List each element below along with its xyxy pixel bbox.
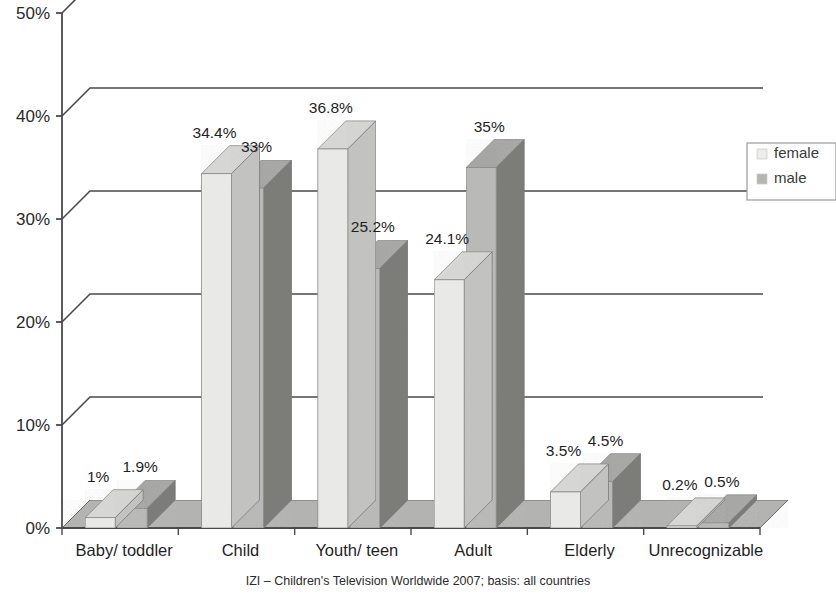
legend-swatch-female	[757, 149, 767, 159]
data-label: 4.5%	[588, 432, 624, 449]
bar-side-face	[264, 160, 292, 528]
data-labels: 1%34.4%36.8%24.1%3.5%0.2%1.9%33%25.2%35%…	[87, 99, 740, 493]
data-label: 1%	[87, 468, 110, 485]
data-label: 24.1%	[425, 230, 469, 247]
x-axis-tick-label: Elderly	[564, 541, 615, 559]
bar-female	[434, 252, 492, 528]
gridline	[62, 191, 763, 219]
legend-label-female: female	[774, 144, 819, 161]
x-axis-tick-label: Youth/ teen	[315, 541, 398, 559]
legend: femalemale	[747, 143, 836, 200]
bar-front-face	[667, 526, 697, 528]
chart-caption: IZI – Children's Television Worldwide 20…	[246, 574, 590, 588]
bar-front-face	[202, 174, 232, 528]
x-axis-tick-label: Unrecognizable	[649, 541, 764, 559]
bar-side-face	[496, 140, 524, 529]
bar-side-face	[464, 252, 492, 528]
data-label: 25.2%	[351, 218, 395, 235]
x-axis-tick-label: Child	[222, 541, 260, 559]
gridline	[62, 88, 763, 116]
data-label: 3.5%	[546, 442, 582, 459]
bar-front-face	[85, 518, 115, 528]
legend-label-male: male	[774, 169, 807, 186]
y-axis-tick-label: 10%	[16, 416, 50, 435]
data-label: 34.4%	[193, 124, 237, 141]
bar-front-face	[551, 492, 581, 528]
bars-group	[85, 121, 757, 528]
data-label: 33%	[241, 138, 272, 155]
y-axis-tick-label: 50%	[16, 4, 50, 23]
y-axis-tick-label: 20%	[16, 313, 50, 332]
y-axis-tick-label: 30%	[16, 210, 50, 229]
y-axis-tick-label: 40%	[16, 107, 50, 126]
source-caption: IZI – Children's Television Worldwide 20…	[246, 574, 590, 588]
bar-front-face	[699, 523, 729, 528]
y-axis-labels: 0%10%20%30%40%50%	[16, 4, 50, 538]
x-axis-labels: Baby/ toddlerChildYouth/ teenAdultElderl…	[62, 528, 763, 559]
legend-swatch-male	[757, 174, 767, 184]
gridline	[62, 0, 763, 13]
chart-container: 0%10%20%30%40%50% Baby/ toddlerChildYout…	[0, 0, 836, 601]
data-label: 1.9%	[122, 458, 158, 475]
bar-side-face	[380, 240, 408, 528]
bar-side-face	[348, 121, 376, 528]
gridlines-group	[62, 0, 763, 425]
gridline	[62, 294, 763, 322]
data-label: 36.8%	[309, 99, 353, 116]
bar-chart-3d: 0%10%20%30%40%50% Baby/ toddlerChildYout…	[0, 0, 836, 601]
data-label: 0.5%	[704, 473, 740, 490]
bar-side-face	[232, 146, 260, 528]
y-axis-tick-label: 0%	[25, 519, 50, 538]
bar-female	[318, 121, 376, 528]
x-axis-tick-label: Adult	[454, 541, 492, 559]
gridline	[62, 397, 763, 425]
data-label: 35%	[474, 118, 505, 135]
bar-female	[202, 146, 260, 528]
bar-front-face	[434, 280, 464, 528]
x-axis-tick-label: Baby/ toddler	[76, 541, 174, 559]
bar-front-face	[318, 149, 348, 528]
data-label: 0.2%	[662, 476, 698, 493]
